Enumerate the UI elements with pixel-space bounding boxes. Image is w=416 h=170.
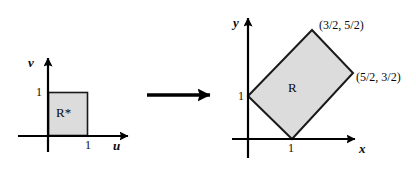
v-axis-label: v [28,56,34,69]
x-axis-tick-1: 1 [288,142,294,154]
y-axis-tick-1: 1 [238,90,244,102]
region-r-fill [248,30,353,139]
u-axis-tick-1: 1 [85,139,91,151]
transformation-figure: v u 1 1 R* y x 1 1 R (3/2, 5/2) (5/2, 3/… [0,0,416,170]
left-plot-group [18,58,128,152]
v-axis-tick-1: 1 [36,86,42,98]
vertex-label-top: (3/2, 5/2) [319,19,364,31]
vertex-label-right: (5/2, 3/2) [356,71,401,83]
x-axis-label: x [359,142,366,155]
u-axis-label: u [113,139,120,152]
y-axis-label: y [233,16,239,29]
region-r-star-label: R* [56,106,71,119]
region-r-label: R [288,81,297,94]
